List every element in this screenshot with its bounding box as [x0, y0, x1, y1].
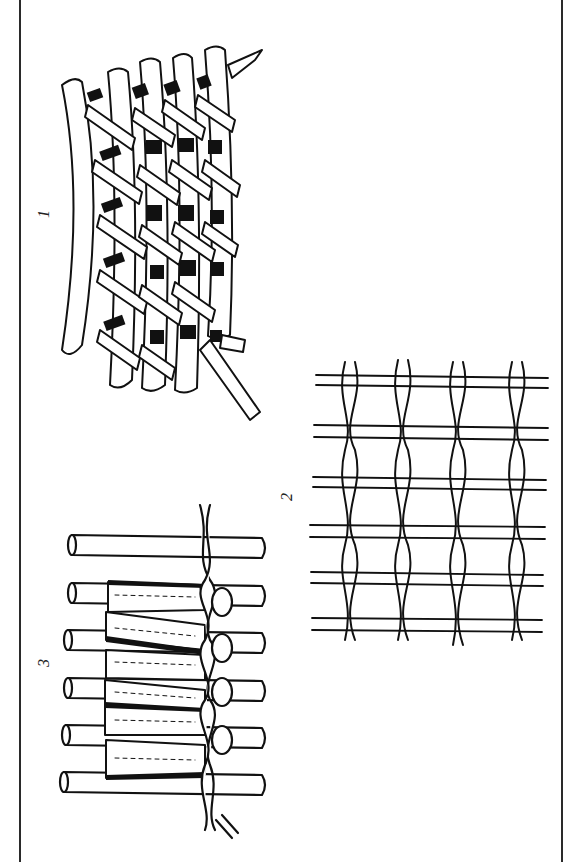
weaving-illustration [0, 0, 584, 862]
figure-2-twined-grid [310, 360, 548, 645]
figure-3-bound-rods [60, 505, 265, 838]
twining-strands [342, 360, 524, 645]
figure-1-basket-weave [62, 47, 262, 421]
